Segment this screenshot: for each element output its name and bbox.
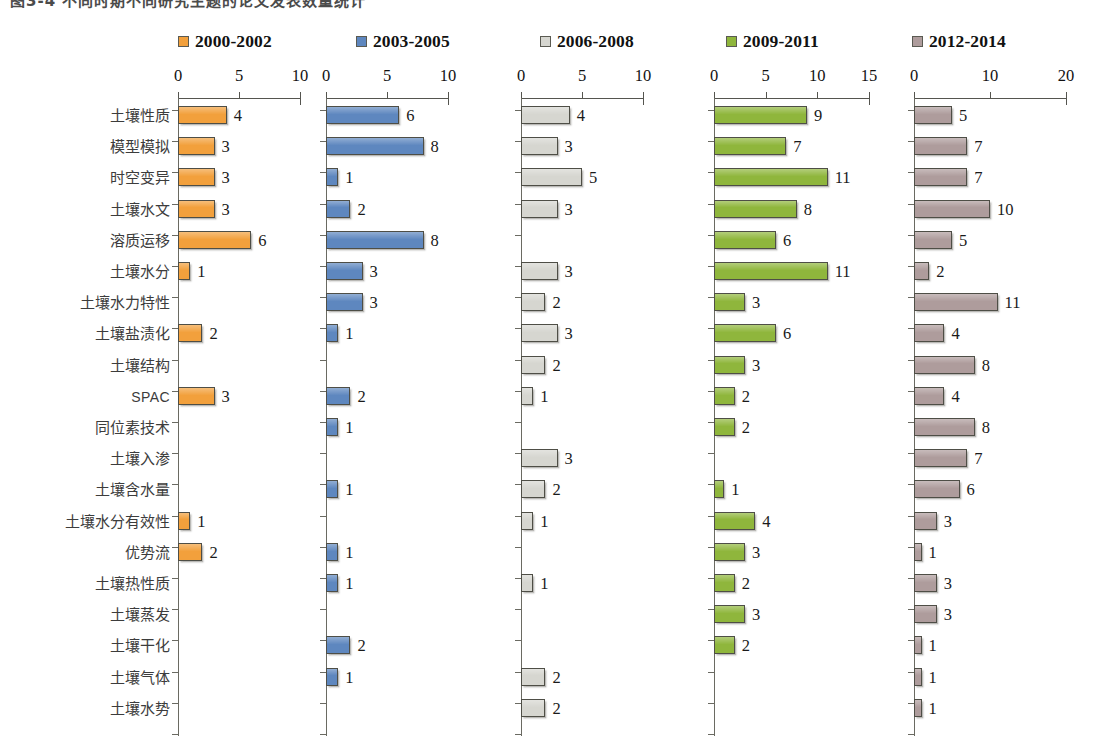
bar-highlight: [915, 138, 966, 145]
bar: [914, 480, 960, 498]
bar: [914, 605, 937, 623]
bar: [914, 200, 990, 218]
bar: [914, 168, 967, 186]
chart-plot-area: 土壤性质模型模拟时空变异土壤水文溶质运移土壤水分土壤水力特性土壤盐渍化土壤结构S…: [0, 58, 1107, 738]
bar-value-label: 5: [959, 233, 967, 250]
bar: [914, 418, 975, 436]
bar-highlight: [915, 419, 974, 426]
legend-swatch-icon: [540, 36, 551, 47]
legend-swatch-icon: [356, 36, 367, 47]
bar-highlight: [915, 513, 936, 520]
legend-item-label: 2009-2011: [743, 31, 819, 52]
legend-item-2009-2011[interactable]: 2009-2011: [726, 28, 819, 54]
bar-highlight: [915, 606, 936, 613]
legend-item-2006-2008[interactable]: 2006-2008: [540, 28, 634, 54]
x-axis-tick: [990, 92, 991, 99]
bar-value-label: 8: [982, 420, 990, 437]
bar-highlight: [915, 388, 943, 395]
chart-legend: 2000-20022003-20052006-20082009-20112012…: [0, 28, 1107, 54]
bar-value-label: 1: [929, 638, 937, 655]
bar-highlight: [915, 544, 921, 551]
bar: [914, 636, 922, 654]
bar: [914, 293, 998, 311]
x-axis-end-tick: [1066, 98, 1067, 105]
bar-highlight: [915, 669, 921, 676]
bar-highlight: [915, 450, 966, 457]
bar: [914, 449, 967, 467]
bar-value-label: 7: [974, 170, 982, 187]
legend-item-2012-2014[interactable]: 2012-2014: [912, 28, 1006, 54]
x-tick-label: 0: [910, 66, 918, 86]
x-tick-label: 20: [1058, 66, 1075, 86]
bar-highlight: [915, 325, 943, 332]
bar-highlight: [915, 575, 936, 582]
legend-swatch-icon: [726, 36, 737, 47]
bar-highlight: [915, 294, 997, 301]
bar: [914, 574, 937, 592]
bar: [914, 668, 922, 686]
bar-value-label: 3: [944, 576, 952, 593]
bar-highlight: [915, 481, 959, 488]
bar-highlight: [915, 169, 966, 176]
bar-value-label: 6: [967, 482, 975, 499]
bar-value-label: 2: [936, 264, 944, 281]
legend-swatch-icon: [912, 36, 923, 47]
bar-value-label: 3: [944, 514, 952, 531]
bar-value-label: 1: [929, 701, 937, 718]
bar-value-label: 7: [974, 139, 982, 156]
bar: [914, 231, 952, 249]
legend-item-label: 2006-2008: [557, 31, 634, 52]
bar-highlight: [915, 357, 974, 364]
bar: [914, 137, 967, 155]
legend-item-2000-2002[interactable]: 2000-2002: [178, 28, 272, 54]
bar-value-label: 10: [997, 202, 1014, 219]
bar-value-label: 8: [982, 358, 990, 375]
bar-value-label: 3: [944, 607, 952, 624]
legend-item-label: 2012-2014: [929, 31, 1006, 52]
bar-highlight: [915, 232, 951, 239]
bar-value-label: 4: [951, 389, 959, 406]
bar-highlight: [915, 201, 989, 208]
bar-value-label: 7: [974, 451, 982, 468]
bar-value-label: 11: [1005, 295, 1021, 312]
bar: [914, 106, 952, 124]
x-tick-label: 10: [982, 66, 999, 86]
bar-highlight: [915, 700, 921, 707]
bar-highlight: [915, 637, 921, 644]
legend-item-2003-2005[interactable]: 2003-2005: [356, 28, 450, 54]
legend-item-label: 2003-2005: [373, 31, 450, 52]
bar-value-label: 5: [959, 108, 967, 125]
legend-item-label: 2000-2002: [195, 31, 272, 52]
panel-2012-2014: 010205771052114848763133111: [0, 58, 1107, 738]
bar: [914, 543, 922, 561]
bar-highlight: [915, 107, 951, 114]
top-cropped-caption-artifact: 图3-4 不同时期不同研究主题的论文发表数量统计: [0, 0, 1107, 16]
legend-swatch-icon: [178, 36, 189, 47]
category-axis-tick: [908, 734, 914, 735]
bar: [914, 512, 937, 530]
bar: [914, 324, 944, 342]
bar-value-label: 4: [951, 326, 959, 343]
bar: [914, 387, 944, 405]
caption-smear-text: 图3-4 不同时期不同研究主题的论文发表数量统计: [10, 0, 366, 10]
bar-highlight: [915, 263, 928, 270]
bar: [914, 699, 922, 717]
bar-value-label: 1: [929, 545, 937, 562]
bar: [914, 356, 975, 374]
bar: [914, 262, 929, 280]
bar-value-label: 1: [929, 670, 937, 687]
